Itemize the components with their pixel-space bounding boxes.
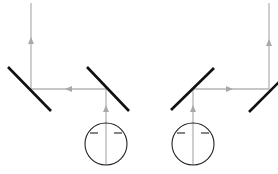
left-arrow-up-output (28, 37, 34, 44)
left-setup (8, 3, 129, 165)
mirror-4 (249, 81, 278, 112)
left-arrow-up-source (103, 105, 109, 112)
right-arrow-up-source (190, 105, 196, 112)
right-arrow-right (226, 86, 233, 92)
right-beam-path (193, 3, 269, 165)
left-arrow-left (65, 86, 72, 92)
left-beam-path (31, 3, 106, 165)
right-arrow-up-output (266, 39, 272, 46)
optical-diagram (0, 0, 278, 174)
diagram-canvas (0, 0, 278, 174)
right-setup (171, 3, 278, 165)
